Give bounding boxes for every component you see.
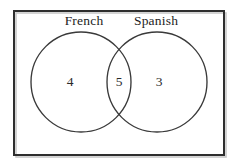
set-label-spanish: Spanish <box>134 13 178 28</box>
region-count-french-only: 4 <box>67 74 74 89</box>
venn-diagram-figure: French Spanish 4 5 3 <box>0 0 238 165</box>
set-label-french: French <box>65 13 104 28</box>
region-count-spanish-only: 3 <box>156 74 163 89</box>
region-count-both: 5 <box>116 74 123 89</box>
